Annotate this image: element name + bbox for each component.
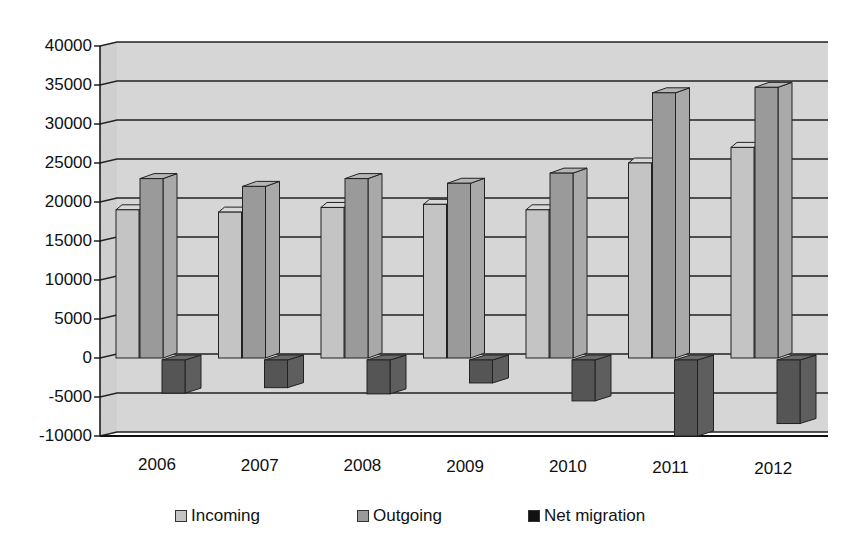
legend-swatch-net-migration [528,510,540,522]
legend-item-outgoing: Outgoing [357,506,442,526]
bar-net-migration-2007 [265,355,304,388]
bar-outgoing-2010 [550,168,587,358]
y-tick-label: 0 [2,349,92,367]
legend-item-incoming: Incoming [175,506,260,526]
bar-net-migration-2011 [675,355,714,436]
y-tick-label: -10000 [2,427,92,445]
x-tick-label: 2012 [733,460,813,478]
x-tick-label: 2006 [117,456,197,474]
bar-net-migration-2010 [572,355,611,401]
bar-outgoing-2011 [653,88,690,358]
legend-swatch-outgoing [357,510,369,522]
y-tick-label: 20000 [2,193,92,211]
legend-label: Net migration [544,506,645,526]
y-tick-label: -5000 [2,388,92,406]
legend-label: Incoming [191,506,260,526]
bar-outgoing-2007 [243,181,280,358]
legend-label: Outgoing [373,506,442,526]
bar-net-migration-2006 [162,355,201,393]
y-tick-label: 15000 [2,232,92,250]
y-tick-label: 35000 [2,76,92,94]
y-tick-label: 25000 [2,154,92,172]
x-tick-label: 2011 [631,459,711,477]
bar-outgoing-2006 [140,174,177,358]
y-tick-label: 30000 [2,115,92,133]
x-tick-label: 2010 [528,458,608,476]
bar-outgoing-2008 [345,174,382,358]
legend: Incoming Outgoing Net migration [0,506,855,530]
y-tick-label: 10000 [2,271,92,289]
bar-outgoing-2009 [448,178,485,358]
y-tick-label: 5000 [2,310,92,328]
legend-item-net-migration: Net migration [528,506,645,526]
bar-net-migration-2012 [777,355,816,424]
legend-swatch-incoming [175,510,187,522]
bar-net-migration-2009 [470,355,509,383]
y-tick-label: 40000 [2,37,92,55]
x-tick-label: 2007 [220,457,300,475]
x-tick-label: 2008 [322,457,402,475]
bar-outgoing-2012 [755,82,792,358]
bar-net-migration-2008 [367,355,406,394]
x-tick-label: 2009 [425,458,505,476]
